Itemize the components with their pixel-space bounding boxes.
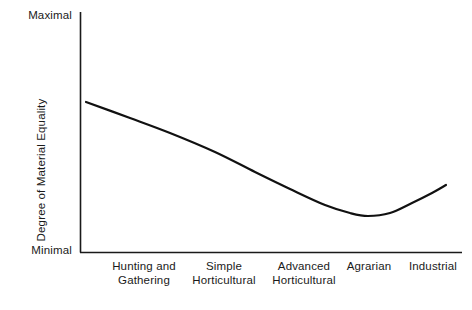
x-axis-tick-label-line: Advanced xyxy=(272,260,335,274)
x-axis-tick-label-line: Gathering xyxy=(112,274,176,288)
x-axis-tick-label: Agrarian xyxy=(347,260,392,274)
x-axis-tick-label-line: Hunting and xyxy=(112,260,176,274)
chart-figure: Maximal Minimal Degree of Material Equal… xyxy=(0,0,472,310)
x-axis-tick-label-line: Horticultural xyxy=(272,274,335,288)
x-axis-tick-label-line: Simple xyxy=(192,260,255,274)
x-axis-tick-label-line: Agrarian xyxy=(347,260,392,274)
x-axis-tick-label-line: Horticultural xyxy=(192,274,255,288)
x-axis-labels: Hunting andGatheringSimpleHorticulturalA… xyxy=(80,260,462,300)
data-series-curve xyxy=(86,102,446,216)
x-axis-tick-label: AdvancedHorticultural xyxy=(272,260,335,287)
x-axis-tick-label: Industrial xyxy=(409,260,457,274)
x-axis-tick-label: SimpleHorticultural xyxy=(192,260,255,287)
x-axis-tick-label: Hunting andGathering xyxy=(112,260,176,287)
x-axis-tick-label-line: Industrial xyxy=(409,260,457,274)
